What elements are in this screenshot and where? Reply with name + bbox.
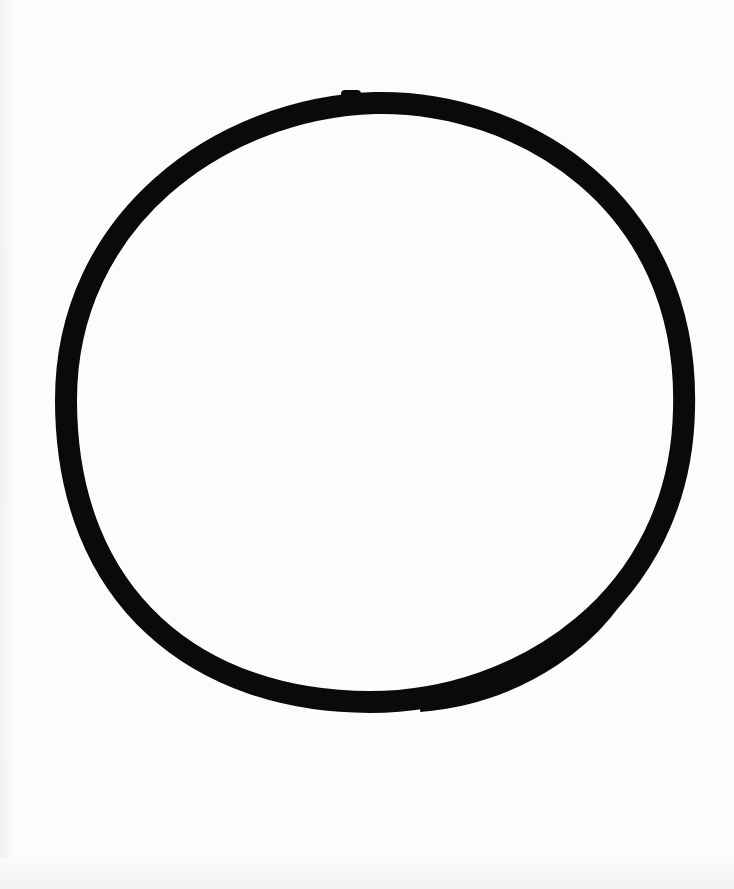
- brush-ring: [66, 103, 684, 702]
- brush-circle-icon: [0, 0, 734, 889]
- artwork-canvas: hand-drawn black brush-stroke circle (en…: [0, 0, 734, 889]
- stroke-start-knob: [341, 90, 361, 106]
